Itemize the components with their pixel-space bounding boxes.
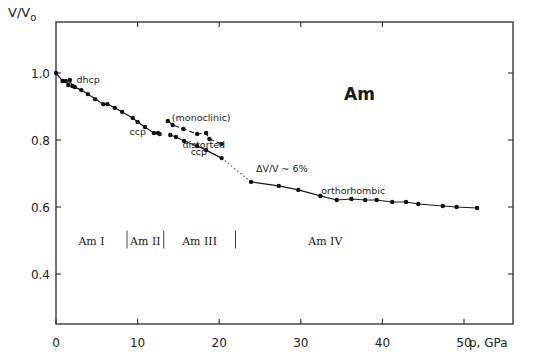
- data-point: [404, 200, 408, 204]
- annotation-label: (monoclinic): [172, 112, 231, 123]
- annotations: dhcpccp(monoclinic)distortedccpΔV/V ~ 6%…: [76, 74, 385, 196]
- x-tick-label: 0: [52, 336, 60, 350]
- data-point: [335, 198, 339, 202]
- y-axis-label: V/Vo: [8, 5, 36, 23]
- axis-tick-labels: 010203040501.00.80.60.4: [31, 67, 472, 350]
- data-point: [73, 85, 77, 89]
- data-point: [441, 204, 445, 208]
- data-point: [204, 131, 208, 135]
- data-point: [135, 120, 139, 124]
- annotation-label: ccp: [191, 146, 207, 157]
- data-point: [101, 102, 105, 106]
- data-point: [475, 206, 479, 210]
- data-point: [64, 79, 68, 83]
- data-point: [120, 110, 124, 114]
- y-tick-label: 0.6: [31, 201, 50, 215]
- data-point: [296, 188, 300, 192]
- annotation-label: ccp: [129, 126, 145, 137]
- y-tick-label: 0.8: [31, 134, 50, 148]
- annotation-label: orthorhombic: [321, 185, 385, 196]
- data-point: [454, 205, 458, 209]
- phase-regions: Am IAm IIAm IIIAm IV: [77, 231, 343, 249]
- phase-label: Am III: [181, 235, 217, 248]
- phase-label: Am I: [77, 235, 104, 248]
- annotation-label: dhcp: [76, 74, 99, 85]
- data-point: [86, 92, 90, 96]
- data-point: [68, 78, 72, 82]
- data-point: [166, 119, 170, 123]
- annotation-label: ΔV/V ~ 6%: [256, 163, 308, 174]
- x-tick-label: 40: [375, 336, 390, 350]
- data-point: [54, 71, 58, 75]
- data-point: [131, 116, 135, 120]
- data-point: [277, 184, 281, 188]
- transition-line: [222, 158, 251, 182]
- data-point: [157, 132, 161, 136]
- data-point: [170, 123, 174, 127]
- y-tick-label: 0.4: [31, 268, 50, 282]
- data-point: [105, 102, 109, 106]
- x-axis-label: p, GPa: [469, 336, 508, 350]
- data-point: [349, 197, 353, 201]
- phase-label: Am II: [129, 235, 161, 248]
- data-point: [168, 133, 172, 137]
- data-point: [249, 180, 253, 184]
- x-tick-label: 20: [212, 336, 227, 350]
- data-point: [390, 200, 394, 204]
- data-point: [374, 198, 378, 202]
- data-point: [219, 156, 223, 160]
- series-lines: [56, 73, 477, 208]
- data-point: [195, 132, 199, 136]
- data-point: [113, 106, 117, 110]
- data-points: [54, 71, 479, 210]
- data-point: [66, 83, 70, 87]
- chart-title: Am: [344, 84, 375, 104]
- data-point: [363, 198, 367, 202]
- y-tick-label: 1.0: [31, 67, 50, 81]
- x-tick-label: 10: [130, 336, 145, 350]
- data-point: [93, 97, 97, 101]
- data-point: [79, 88, 83, 92]
- x-tick-label: 30: [293, 336, 308, 350]
- data-point: [181, 127, 185, 131]
- data-point: [152, 131, 156, 135]
- phase-label: Am IV: [307, 235, 343, 248]
- chart: 010203040501.00.80.60.4 V/Vo p, GPa Am d…: [0, 0, 541, 362]
- data-point: [416, 202, 420, 206]
- data-point: [174, 135, 178, 139]
